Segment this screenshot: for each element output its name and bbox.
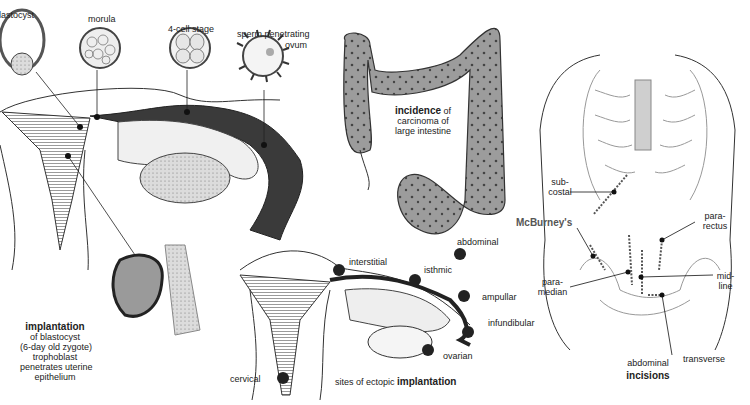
colon-caption-of: of bbox=[441, 106, 451, 116]
label-4-cell-stage: 4-cell stage bbox=[168, 24, 214, 34]
colon-caption-line: large intestine bbox=[378, 126, 468, 136]
label-subcostal-line1: sub- bbox=[545, 177, 575, 187]
anatomy-illustrations bbox=[0, 0, 750, 405]
label-paramedian: para- median bbox=[535, 277, 570, 297]
label-paramedian-line2: median bbox=[535, 287, 570, 297]
implantation-caption-line: (6-day old zygote) bbox=[20, 342, 90, 352]
colon-caption: incidence of carcinoma of large intestin… bbox=[378, 106, 468, 136]
colon-caption-bold: incidence bbox=[395, 105, 441, 116]
label-pararectus: para- rectus bbox=[700, 211, 730, 231]
label-abdominal-site: abdominal bbox=[457, 237, 499, 247]
label-ovarian: ovarian bbox=[443, 351, 473, 361]
label-midline: mid- line bbox=[713, 271, 738, 291]
label-infundibular: infundibular bbox=[488, 318, 535, 328]
implantation-caption: implantation of blastocyst (6-day old zy… bbox=[20, 322, 90, 382]
label-subcostal-line2: costal bbox=[545, 187, 575, 197]
incisions-caption-top: abdominal bbox=[618, 358, 678, 368]
colon-caption-line: carcinoma of bbox=[378, 116, 468, 126]
incisions-caption-bold: incisions bbox=[618, 371, 678, 381]
label-sperm-penetrating: sperm penetrating bbox=[237, 29, 310, 39]
label-interstitial: interstitial bbox=[349, 257, 387, 267]
label-morula: morula bbox=[88, 14, 116, 24]
implantation-caption-line: penetrates uterine bbox=[20, 362, 90, 372]
label-subcostal: sub- costal bbox=[545, 177, 575, 197]
label-blastocyst: blastocyst bbox=[0, 10, 34, 20]
implantation-caption-title: implantation bbox=[20, 322, 90, 332]
label-midline-line2: line bbox=[713, 281, 738, 291]
label-ovum: ovum bbox=[285, 40, 307, 50]
label-cervical: cervical bbox=[230, 374, 261, 384]
label-mcburneys: McBurney's bbox=[516, 218, 572, 228]
implantation-caption-line: of blastocyst bbox=[20, 332, 90, 342]
ectopic-caption: sites of ectopic implantation bbox=[335, 377, 456, 387]
label-ampullar: ampullar bbox=[482, 292, 517, 302]
implantation-caption-line: epithelium bbox=[20, 372, 90, 382]
ectopic-caption-bold: implantation bbox=[397, 376, 456, 387]
label-midline-line1: mid- bbox=[713, 271, 738, 281]
implantation-caption-line: trophoblast bbox=[20, 352, 90, 362]
incisions-caption: abdominal incisions bbox=[618, 358, 678, 381]
label-pararectus-line1: para- bbox=[700, 211, 730, 221]
torso-incisions-diagram bbox=[540, 55, 735, 355]
label-isthmic: isthmic bbox=[424, 265, 452, 275]
ectopic-caption-prefix: sites of ectopic bbox=[335, 377, 397, 387]
label-paramedian-line1: para- bbox=[535, 277, 570, 287]
label-pararectus-line2: rectus bbox=[700, 221, 730, 231]
label-transverse: transverse bbox=[683, 354, 725, 364]
